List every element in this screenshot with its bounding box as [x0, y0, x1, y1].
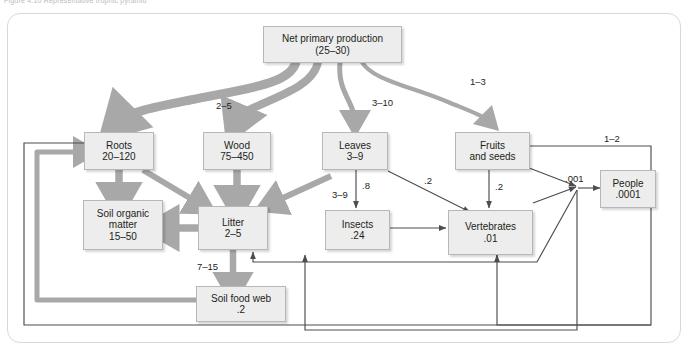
node-wood-line2: 75–450 [220, 151, 253, 163]
node-som-line2: matter [109, 219, 137, 231]
edge-rail-to-litter [253, 252, 418, 262]
node-fruits-line2: and seeds [469, 151, 515, 163]
node-fruits-line1: Fruits [480, 140, 505, 152]
edge-vertebrates-hub [533, 187, 576, 203]
node-roots-line2: 20–120 [102, 151, 135, 163]
label-npp-fruits: 1–3 [470, 77, 486, 87]
label-leaves-vertebrates: .2 [424, 176, 432, 186]
node-litter-line2: 2–5 [225, 228, 242, 240]
diagram-canvas: Figure 4.10 Representative trophic pyram… [0, 0, 689, 352]
label-npp-leaves: 3–10 [372, 98, 393, 108]
node-som-line1: Soil organic [97, 208, 149, 220]
edge-npp-leaves [340, 62, 355, 121]
node-wood-line1: Wood [224, 140, 250, 152]
node-insects[interactable]: Insects .24 [325, 210, 390, 250]
edge-npp-roots [119, 62, 296, 121]
node-roots-line1: Roots [106, 140, 132, 152]
node-fruits-and-seeds[interactable]: Fruits and seeds [455, 132, 530, 170]
label-npp-wood: 2–5 [216, 101, 232, 111]
node-soil-organic-matter[interactable]: Soil organic matter 15–50 [83, 200, 163, 250]
node-net-primary-production[interactable]: Net primary production (25–30) [263, 26, 402, 63]
label-fruits-vertebrates: .2 [495, 182, 503, 192]
node-people-line2: .0001 [615, 189, 640, 201]
label-leaves-insects: .8 [362, 181, 370, 191]
node-soilfoodweb-line2: .2 [237, 304, 245, 316]
node-leaves-line2: 3–9 [347, 151, 364, 163]
node-npp-line1: Net primary production [282, 33, 383, 45]
node-soilfoodweb-line1: Soil food web [211, 293, 271, 305]
node-soil-food-web[interactable]: Soil food web .2 [196, 286, 286, 322]
edge-leaves-litter [272, 176, 331, 203]
node-insects-line1: Insects [342, 219, 374, 231]
label-litter-soilfoodweb: 7–15 [197, 262, 218, 272]
node-vertebrates-line1: Vertebrates [465, 221, 516, 233]
node-insects-line2: .24 [351, 230, 365, 242]
edge-npp-fruits [362, 62, 489, 121]
label-fruits-loop: 1–2 [604, 134, 620, 144]
node-leaves[interactable]: Leaves 3–9 [322, 132, 388, 170]
node-people[interactable]: People .0001 [600, 170, 656, 208]
node-roots[interactable]: Roots 20–120 [84, 132, 154, 170]
node-npp-line2: (25–30) [315, 45, 349, 57]
node-people-line1: People [612, 178, 643, 190]
node-litter-line1: Litter [222, 217, 244, 229]
node-som-line3: 15–50 [109, 231, 137, 243]
label-leaves-litter: 3–9 [332, 190, 348, 200]
node-litter[interactable]: Litter 2–5 [198, 206, 268, 250]
edge-roots-litter [143, 170, 200, 204]
node-leaves-line1: Leaves [339, 140, 371, 152]
node-vertebrates-line2: .01 [484, 233, 498, 245]
label-vertebrates-people: .001 [565, 174, 584, 184]
node-vertebrates[interactable]: Vertebrates .01 [448, 210, 533, 255]
node-wood[interactable]: Wood 75–450 [203, 132, 271, 170]
